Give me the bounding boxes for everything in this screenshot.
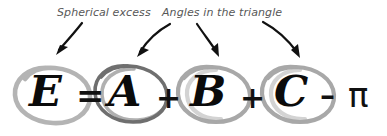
equation-term-E: E	[29, 70, 62, 113]
arrow-to-E	[56, 23, 82, 55]
equation-term-A: A	[108, 70, 141, 113]
label-spherical-excess: Spherical excess	[57, 6, 151, 19]
label-angles-in-triangle: Angles in the triangle	[162, 6, 282, 19]
spherical-excess-figure: Spherical excess Angles in the triangle …	[0, 0, 387, 136]
equation-term-C: C	[274, 70, 308, 113]
equation-operator-plus-1: +	[156, 83, 181, 113]
equation-term-B: B	[190, 70, 226, 113]
equation-operator-minus: –	[320, 80, 335, 110]
equation-operator-plus-2: +	[240, 83, 265, 113]
equation-constant-pi: π	[348, 78, 368, 112]
arrow-to-A	[137, 24, 170, 57]
equation-operator-equals: =	[76, 78, 105, 112]
arrow-to-C	[263, 22, 300, 58]
arrow-to-B	[197, 24, 219, 57]
